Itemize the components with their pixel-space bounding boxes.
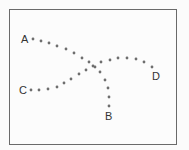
path-dot — [65, 48, 68, 51]
path-a-to-b — [32, 38, 111, 108]
path-dot — [56, 45, 59, 48]
path-dot — [70, 78, 73, 81]
path-dot — [92, 65, 95, 68]
path-c-to-d — [30, 57, 154, 92]
path-dot — [99, 71, 102, 74]
path-dot — [88, 61, 91, 64]
point-label-a: A — [21, 33, 29, 45]
point-label-b: B — [105, 110, 112, 122]
path-dot — [81, 57, 84, 60]
path-dot — [107, 87, 110, 90]
path-dot — [100, 61, 103, 64]
path-dot — [48, 42, 51, 45]
path-dot — [108, 96, 111, 99]
path-dot — [30, 89, 33, 92]
path-dot — [38, 89, 41, 92]
path-dot — [73, 52, 76, 55]
path-dot — [108, 105, 111, 108]
point-label-d: D — [152, 70, 160, 82]
path-dot — [104, 79, 107, 82]
path-dot — [32, 38, 35, 41]
path-dot — [151, 66, 154, 69]
dotted-paths-diagram: ABCD — [0, 0, 189, 150]
path-dot — [143, 61, 146, 64]
path-dot — [126, 57, 129, 60]
path-dot — [135, 58, 138, 61]
path-dot — [63, 82, 66, 85]
path-dot — [109, 59, 112, 62]
path-dot — [78, 73, 81, 76]
path-dot — [47, 88, 50, 91]
path-dot — [117, 57, 120, 60]
path-dot — [56, 86, 59, 89]
path-dot — [85, 69, 88, 72]
path-dot — [40, 40, 43, 43]
point-label-c: C — [19, 84, 27, 96]
